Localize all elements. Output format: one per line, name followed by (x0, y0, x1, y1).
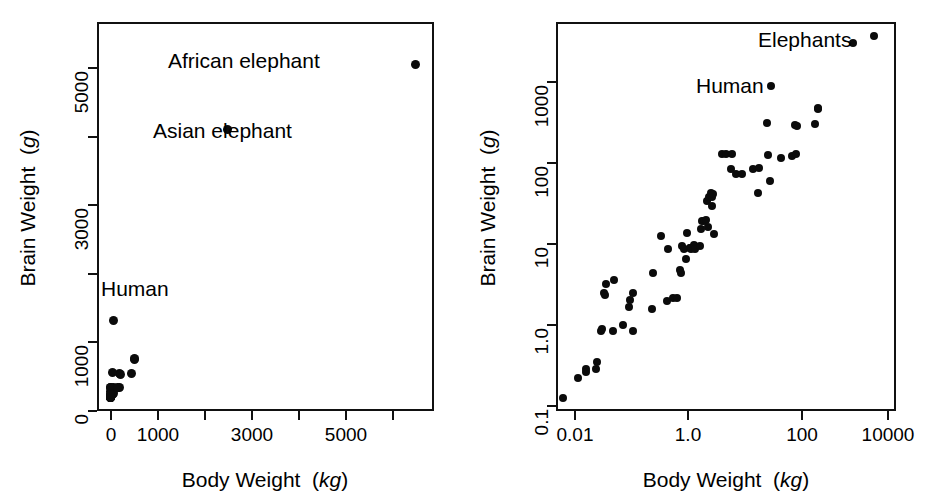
x-tick-label-0p01: 0.01 (557, 424, 594, 446)
data-point (657, 232, 665, 240)
x-tick-label-100: 100 (786, 424, 818, 446)
data-point (619, 321, 627, 329)
x-tick-mark (110, 411, 112, 420)
x-axis-label-right: Body Weight (kg) (643, 468, 810, 492)
y-axis-unit-left: g (16, 136, 39, 148)
y-axis-unit-right: g (476, 136, 499, 148)
panel-loglog: Brain Weight (g) 0.1 1.0 10 100 1000 0.0… (470, 0, 940, 498)
scatter-points-left (99, 24, 432, 409)
x-tick-mark (204, 411, 206, 420)
data-point (108, 368, 117, 377)
data-point (574, 374, 582, 382)
y-tick-mark (88, 204, 97, 206)
data-point (764, 151, 772, 159)
data-point (793, 122, 801, 130)
y-axis-label-text-right: Brain Weight (476, 167, 499, 287)
data-point (682, 255, 690, 263)
x-tick-label-5000: 5000 (325, 424, 367, 446)
data-point (411, 60, 420, 69)
x-tick-mark (574, 411, 576, 420)
y-tick-label-100: 100 (531, 166, 553, 232)
data-point (648, 305, 656, 313)
data-point (738, 170, 746, 178)
x-axis-unit-left: kg (319, 468, 341, 491)
x-tick-mark (801, 411, 803, 420)
y-tick-label-1p0: 1.0 (531, 328, 553, 394)
brain-body-weight-figure: Brain Weight (g) 0 1000 3000 5000 0 1000… (0, 0, 940, 498)
x-axis-label-left: Body Weight (kg) (182, 468, 349, 492)
annotation-human-right: Human (696, 74, 764, 98)
data-point (811, 120, 819, 128)
y-tick-mark (547, 81, 556, 83)
data-point (767, 82, 775, 90)
data-point (710, 230, 718, 238)
y-tick-label-1000: 1000 (531, 85, 553, 151)
y-tick-mark (88, 341, 97, 343)
y-tick-mark (547, 243, 556, 245)
annotation-human: Human (101, 277, 169, 301)
y-tick-label-5000: 5000 (71, 71, 93, 137)
data-point (629, 327, 637, 335)
data-point (683, 229, 691, 237)
data-point (109, 316, 118, 325)
data-point (602, 280, 610, 288)
y-tick-label-0p1: 0.1 (531, 409, 553, 475)
x-tick-mark (298, 411, 300, 420)
x-tick-mark (887, 411, 889, 420)
data-point (610, 276, 618, 284)
x-tick-mark (345, 411, 347, 420)
x-axis-unit-right: kg (780, 468, 802, 491)
annotation-elephants: Elephants (758, 28, 851, 52)
data-point (664, 245, 672, 253)
y-tick-mark (547, 324, 556, 326)
data-point (870, 32, 878, 40)
panel-linear: Brain Weight (g) 0 1000 3000 5000 0 1000… (0, 0, 470, 498)
y-tick-label-3000: 3000 (71, 208, 93, 274)
x-tick-mark (157, 411, 159, 420)
y-tick-label-10: 10 (531, 247, 553, 313)
data-point (629, 289, 637, 297)
data-point (754, 189, 762, 197)
data-point (709, 190, 717, 198)
data-point (777, 154, 785, 162)
data-point (625, 303, 633, 311)
x-tick-mark (392, 411, 394, 420)
x-axis-label-text-left: Body Weight (182, 468, 301, 491)
plot-frame-left (97, 22, 434, 411)
data-point (559, 394, 567, 402)
data-point (696, 242, 704, 250)
x-tick-mark (251, 411, 253, 420)
y-tick-mark (547, 162, 556, 164)
data-point (609, 327, 617, 335)
data-point (649, 269, 657, 277)
data-point (598, 325, 606, 333)
y-axis-label-text-left: Brain Weight (16, 167, 39, 287)
annotation-african-elephant: African elephant (168, 49, 320, 73)
y-tick-mark (547, 405, 556, 407)
data-point (593, 358, 601, 366)
data-point (582, 368, 590, 376)
x-tick-label-0: 0 (106, 424, 117, 446)
x-tick-label-1p0: 1.0 (675, 424, 701, 446)
data-point (708, 202, 716, 210)
x-tick-label-10000: 10000 (862, 424, 915, 446)
y-tick-label-1000: 1000 (71, 345, 93, 411)
data-point (792, 150, 800, 158)
data-point (677, 269, 685, 277)
data-point (704, 223, 712, 231)
data-point (766, 177, 774, 185)
data-point (130, 354, 139, 363)
data-point (763, 119, 771, 127)
y-tick-label-0: 0 (71, 414, 93, 480)
annotation-asian-elephant: Asian elephant (153, 119, 292, 143)
data-point (673, 294, 681, 302)
x-tick-label-3000: 3000 (231, 424, 273, 446)
x-tick-mark (687, 411, 689, 420)
data-point (728, 150, 736, 158)
y-tick-mark (88, 67, 97, 69)
data-point (127, 369, 136, 378)
data-point (755, 164, 763, 172)
y-axis-label-right: Brain Weight (g) (476, 108, 500, 308)
x-tick-label-1000: 1000 (137, 424, 179, 446)
data-point (601, 291, 609, 299)
